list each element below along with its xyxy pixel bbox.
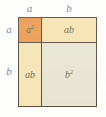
cell-b-squared-label: b2 — [65, 70, 73, 80]
diagram-canvas: a b a b a2 ab ab b2 — [0, 0, 106, 117]
top-label-b: b — [41, 3, 97, 14]
cell-a-squared-exponent: 2 — [31, 23, 34, 30]
top-label-a: a — [18, 3, 41, 14]
cell-ab-bottom-left: ab — [19, 43, 42, 106]
cell-ab-top-right: ab — [42, 18, 96, 43]
cell-b-squared: b2 — [42, 43, 96, 106]
area-model-square: a2 ab ab b2 — [18, 17, 97, 107]
cell-a-squared: a2 — [19, 18, 42, 43]
cell-ab-top-right-label: ab — [64, 25, 74, 35]
cell-b-squared-exponent: 2 — [70, 67, 73, 74]
left-label-a: a — [2, 24, 16, 35]
cell-ab-bottom-left-label: ab — [25, 70, 35, 80]
cell-a-squared-label: a2 — [26, 25, 34, 35]
left-label-b: b — [2, 66, 16, 77]
